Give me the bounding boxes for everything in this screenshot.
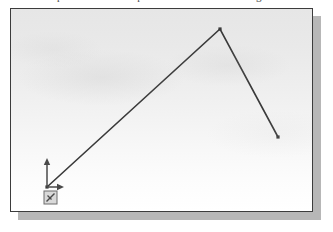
cad-viewport-frame: [10, 8, 313, 212]
polyline-path[interactable]: [47, 29, 278, 187]
ucs-x-axis-arrowhead: [57, 184, 64, 190]
vertex-grip-peak-vertex[interactable]: [218, 27, 221, 30]
pickbox-cursor-icon[interactable]: [44, 191, 57, 204]
cad-geometry: [11, 9, 313, 212]
figure-caption: Repeat the above steps and create additi…: [0, 0, 333, 2]
polyline-vertex-grips[interactable]: [45, 27, 279, 188]
vertex-grip-end-vertex[interactable]: [276, 135, 279, 138]
polyline-object[interactable]: [47, 29, 278, 187]
cad-drawing-canvas[interactable]: [11, 9, 312, 211]
ucs-y-axis-arrowhead: [44, 158, 50, 165]
caption-strip: Repeat the above steps and create additi…: [0, 0, 333, 3]
figure-page: Repeat the above steps and create additi…: [0, 0, 333, 232]
